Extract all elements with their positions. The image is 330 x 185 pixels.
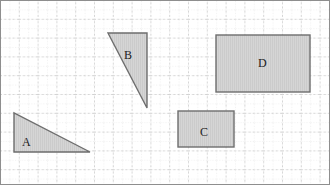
shape-triangle-b [108,33,147,108]
geometry-grid-figure: A B C D [0,0,330,185]
shape-label-b: B [124,49,132,61]
shape-label-d: D [258,57,267,69]
shape-label-a: A [22,136,31,148]
shapes-layer [0,0,330,185]
shape-label-c: C [200,126,208,138]
